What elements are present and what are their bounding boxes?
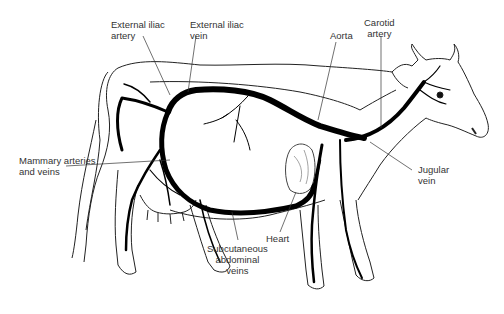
- label-mammary-arteries-veins: Mammary arteries and veins: [19, 155, 96, 177]
- label-jugular-vein: Jugular vein: [418, 164, 449, 186]
- label-line: and veins: [19, 166, 96, 177]
- label-line: artery: [364, 28, 395, 39]
- label-line: Mammary arteries: [19, 155, 96, 166]
- label-line: vein: [190, 30, 244, 41]
- label-line: veins: [207, 265, 268, 276]
- blood-vessels: [118, 66, 451, 282]
- label-line: External iliac: [111, 19, 165, 30]
- label-line: Carotid: [364, 17, 395, 28]
- label-line: Subcutaneous: [207, 243, 268, 254]
- label-line: Heart: [266, 233, 289, 244]
- label-external-iliac-vein: External iliac vein: [190, 19, 244, 41]
- label-external-iliac-artery: External iliac artery: [111, 19, 165, 41]
- cow-circulatory-diagram: External iliac artery External iliac vei…: [0, 0, 504, 314]
- label-line: External iliac: [190, 19, 244, 30]
- label-line: Aorta: [330, 30, 353, 41]
- label-line: abdominal: [207, 254, 268, 265]
- label-subcutaneous-abdominal-veins: Subcutaneous abdominal veins: [207, 243, 268, 276]
- label-line: artery: [111, 30, 165, 41]
- label-line: Jugular: [418, 164, 449, 175]
- label-line: vein: [418, 175, 449, 186]
- label-aorta: Aorta: [330, 30, 353, 41]
- label-carotid-artery: Carotid artery: [364, 17, 395, 39]
- label-heart: Heart: [266, 233, 289, 244]
